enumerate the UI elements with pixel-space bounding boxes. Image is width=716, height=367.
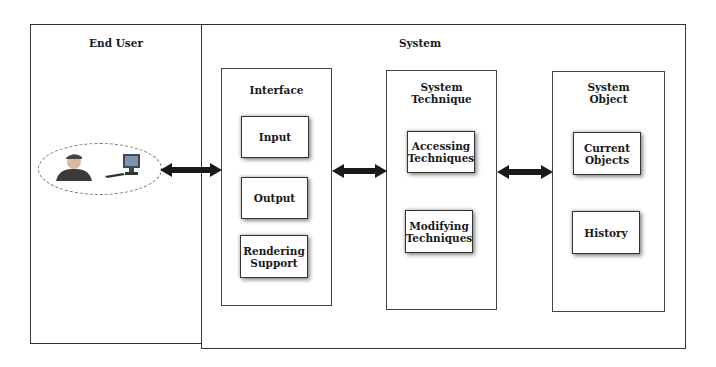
person-icon (53, 151, 95, 181)
system-technique-title: System Technique (386, 81, 497, 105)
arrow-user-interface (160, 163, 222, 177)
input-box: Input (241, 116, 309, 158)
output-box: Output (241, 177, 308, 219)
system-object-panel (552, 71, 665, 312)
history-box: History (572, 211, 640, 254)
arrow-interface-technique (332, 164, 387, 178)
system-technique-panel (386, 70, 497, 310)
system-object-title: System Object (552, 81, 665, 105)
computer-icon (103, 154, 143, 180)
system-title: System (380, 37, 460, 49)
accessing-techniques-box: Accessing Techniques (407, 131, 475, 173)
modifying-techniques-box: Modifying Techniques (405, 210, 473, 253)
current-objects-box: Current Objects (573, 132, 641, 175)
rendering-support-box: Rendering Support (240, 235, 308, 278)
end-user-title: End User (30, 37, 202, 49)
arrow-technique-object (497, 165, 553, 179)
interface-title: Interface (221, 84, 332, 96)
